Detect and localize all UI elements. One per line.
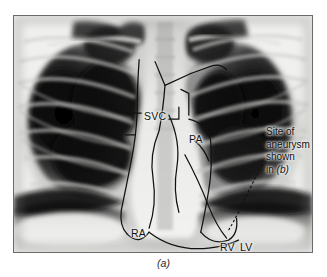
label-svc: SVC bbox=[144, 111, 166, 122]
figure-chest-radiograph: SVC PA RA RV LV Site of aneurysm shown i… bbox=[0, 0, 327, 277]
callout-line-2: aneurysm bbox=[266, 139, 313, 152]
callout-line-4-prefix: in bbox=[266, 164, 277, 175]
xray-panel: SVC PA RA RV LV Site of aneurysm shown i… bbox=[13, 15, 313, 253]
label-rv: RV bbox=[220, 242, 235, 253]
callout-line-1: Site of bbox=[266, 126, 313, 139]
label-ra: RA bbox=[131, 228, 146, 239]
label-pa: PA bbox=[189, 134, 203, 145]
callout-line-3: shown bbox=[266, 151, 313, 164]
figure-caption: (a) bbox=[0, 257, 327, 269]
callout-line-4: in (b) bbox=[266, 164, 313, 177]
callout-panel-reference: (b) bbox=[277, 164, 289, 175]
aneurysm-callout-text: Site of aneurysm shown in (b) bbox=[266, 126, 313, 176]
label-lv: LV bbox=[240, 242, 252, 253]
